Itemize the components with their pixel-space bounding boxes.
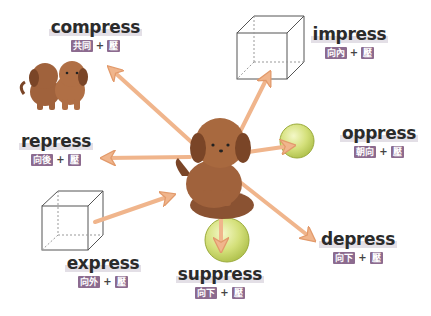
word-parts: 朝向 + 壓 (336, 146, 422, 158)
word-label: oppress (340, 124, 418, 142)
word-parts: 向後 + 壓 (14, 154, 98, 166)
root-tag: 壓 (391, 146, 404, 158)
prefix-tag: 朝向 (354, 146, 376, 158)
plus-sign: + (96, 40, 104, 52)
word-depress: depress 向下 + 壓 (316, 230, 400, 264)
prefix-tag: 向下 (195, 287, 217, 299)
word-parts: 向外 + 壓 (62, 276, 144, 288)
impress-cube-icon (237, 16, 304, 79)
plus-sign: + (350, 47, 358, 59)
word-label: repress (19, 132, 93, 150)
word-label: depress (319, 230, 397, 248)
word-compress: compress 共同 + 壓 (48, 18, 143, 52)
root-tag: 壓 (115, 276, 128, 288)
center-dog-icon (176, 118, 254, 219)
word-label: impress (311, 25, 389, 43)
word-impress: impress 向內 + 壓 (302, 25, 397, 59)
prefix-tag: 共同 (71, 40, 93, 52)
suppress-sphere-icon (205, 218, 249, 262)
word-label: suppress (176, 265, 264, 283)
arrow-repress (106, 157, 190, 158)
arrow-compress (112, 70, 198, 148)
two-dogs-icon (21, 61, 88, 110)
word-parts: 共同 + 壓 (48, 40, 143, 52)
root-tag: 壓 (107, 40, 120, 52)
prefix-tag: 向外 (78, 276, 100, 288)
word-parts: 向下 + 壓 (316, 252, 400, 264)
word-label: express (65, 254, 142, 272)
plus-sign: + (379, 146, 387, 158)
word-repress: repress 向後 + 壓 (14, 132, 98, 166)
word-parts: 向下 + 壓 (174, 287, 266, 299)
word-oppress: oppress 朝向 + 壓 (336, 124, 422, 158)
oppress-sphere-icon (280, 124, 314, 158)
word-express: express 向外 + 壓 (62, 254, 144, 288)
root-tag: 壓 (361, 47, 374, 59)
word-suppress: suppress 向下 + 壓 (174, 265, 266, 299)
plus-sign: + (220, 287, 228, 299)
prefix-tag: 向後 (31, 154, 53, 166)
root-tag: 壓 (232, 287, 245, 299)
root-tag: 壓 (370, 252, 383, 264)
root-tag: 壓 (68, 154, 81, 166)
plus-sign: + (56, 154, 64, 166)
plus-sign: + (103, 276, 111, 288)
word-label: compress (49, 18, 142, 36)
prefix-tag: 向下 (333, 252, 355, 264)
prefix-tag: 向內 (325, 47, 347, 59)
plus-sign: + (358, 252, 366, 264)
word-parts: 向內 + 壓 (302, 47, 397, 59)
arrow-express (95, 196, 170, 222)
